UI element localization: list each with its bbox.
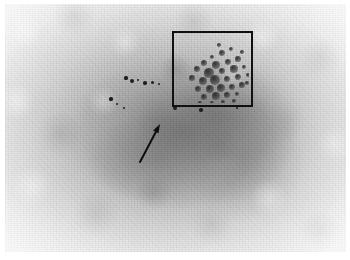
calcification-spot [225,59,231,65]
calcification-spot [189,75,194,80]
calcification-spot [198,101,202,103]
calcification-spot [217,43,221,47]
calcification-spot [221,100,225,103]
calcification-spot [199,77,207,85]
calcification-spot [245,81,249,85]
calcification-spot [224,92,230,98]
calcification-spot [210,101,215,103]
figure-caption [0,0,1,1]
satellite-speck [199,108,203,112]
roi-rectangle[interactable] [172,31,253,107]
calcification-spot [232,99,236,103]
calcification-cluster [176,35,249,103]
calcification-spot [239,82,244,87]
calcification-spot [219,68,225,74]
calcification-spot [235,74,241,80]
radiograph-image [5,4,346,252]
calcification-spot [217,84,225,92]
calcification-spot [235,92,239,96]
calcification-spot [229,84,235,90]
calcification-spot [240,50,244,54]
calcification-spot [219,50,225,56]
calcification-spot [230,65,237,72]
satellite-speck [143,81,147,85]
satellite-speck [109,97,112,100]
calcification-spot [201,60,208,67]
calcification-spot [212,92,219,99]
calcification-spot [210,55,214,59]
calcification-spot [235,56,240,61]
satellite-speck [130,79,134,83]
satellite-speck [151,81,154,84]
calcification-spot [194,66,200,72]
calcification-spot [224,76,231,83]
calcification-spot [246,73,249,77]
calcification-spot [201,94,207,100]
calcification-spot [195,86,201,92]
calcification-spot [242,65,247,70]
figure-root: Radiographic grayscale image with region… [0,0,350,260]
roi-label [0,0,1,1]
figure-title: Radiographic grayscale image with region… [0,0,1,1]
arrow-label [0,0,1,1]
satellite-speck [124,76,127,79]
calcification-spot [229,47,234,52]
